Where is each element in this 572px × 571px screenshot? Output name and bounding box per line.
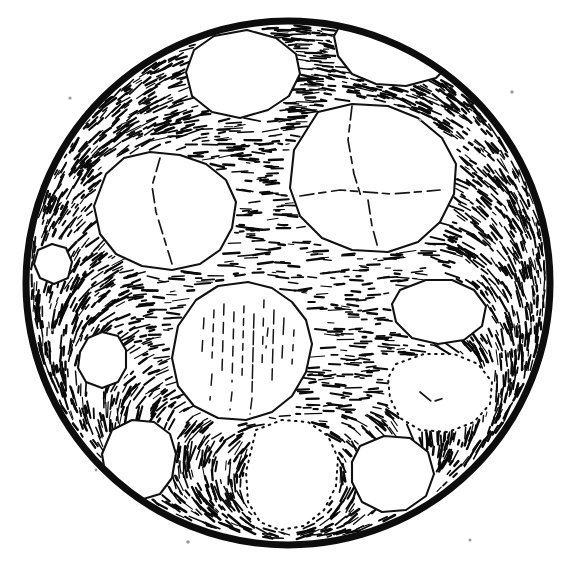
matrix-dash: [376, 324, 380, 325]
matrix-dash: [36, 296, 37, 301]
matrix-dash: [231, 480, 232, 484]
matrix-dash: [221, 480, 222, 484]
matrix-dash: [303, 40, 314, 41]
matrix-dash: [538, 253, 539, 264]
matrix-dash: [321, 272, 330, 273]
matrix-dash: [360, 354, 372, 355]
matrix-dash: [316, 40, 323, 41]
clast-outline: [34, 244, 72, 284]
matrix-dash: [144, 354, 148, 355]
matrix-dash: [501, 353, 502, 357]
matrix-dash: [286, 140, 295, 141]
matrix-dash: [315, 329, 327, 330]
matrix-dash: [451, 432, 452, 443]
matrix-dash: [439, 261, 449, 262]
matrix-dash: [167, 313, 179, 315]
matrix-dash: [140, 336, 146, 337]
matrix-dash: [202, 141, 209, 142]
thin-section-figure: [0, 0, 572, 571]
matrix-dash: [170, 291, 175, 292]
matrix-dash: [212, 470, 213, 480]
matrix-dash: [528, 350, 529, 356]
matrix-dash: [337, 376, 344, 377]
matrix-dash: [300, 392, 312, 393]
matrix-dash: [281, 533, 284, 534]
matrix-dash: [306, 61, 310, 62]
matrix-dash: [217, 129, 226, 130]
matrix-dash: [142, 300, 146, 301]
matrix-dash: [100, 413, 102, 420]
matrix-dash: [260, 180, 267, 181]
matrix-dash: [184, 272, 200, 274]
matrix-dash: [258, 177, 266, 178]
matrix-dash: [526, 307, 527, 319]
matrix-dash: [496, 391, 497, 402]
matrix-dash: [87, 316, 89, 319]
matrix-dash: [420, 268, 425, 269]
matrix-dash: [323, 66, 333, 67]
matrix-dash: [367, 313, 377, 314]
matrix-dash: [367, 283, 372, 284]
matrix-dash: [505, 372, 507, 386]
matrix-dash: [195, 283, 211, 284]
stray-speck: [533, 297, 536, 300]
matrix-dash: [106, 402, 107, 417]
matrix-dash: [242, 145, 245, 146]
matrix-dash: [528, 200, 529, 206]
matrix-dash: [153, 297, 164, 298]
matrix-dash: [367, 264, 380, 265]
matrix-dash: [319, 421, 327, 422]
matrix-dash: [243, 155, 251, 156]
matrix-dash: [266, 183, 276, 184]
matrix-dash: [310, 58, 326, 59]
matrix-dash: [441, 435, 442, 446]
matrix-dash: [533, 316, 534, 321]
matrix-dash: [260, 192, 270, 193]
matrix-dash: [433, 447, 434, 455]
matrix-dash: [358, 80, 364, 81]
matrix-dash: [264, 182, 272, 183]
matrix-dash: [269, 242, 279, 243]
matrix-dash: [217, 169, 226, 170]
matrix-dash: [336, 384, 346, 386]
matrix-dash: [158, 419, 160, 422]
matrix-dash: [302, 30, 310, 31]
matrix-dash: [243, 210, 249, 211]
matrix-dash: [234, 274, 238, 275]
matrix-dash: [359, 266, 366, 267]
matrix-dash: [272, 272, 276, 273]
matrix-dash: [310, 531, 313, 532]
matrix-dash: [277, 271, 285, 272]
matrix-dash: [243, 473, 244, 476]
matrix-dash: [309, 367, 319, 368]
matrix-dash: [537, 311, 538, 315]
matrix-dash: [404, 345, 408, 346]
matrix-dash: [512, 349, 513, 357]
matrix-dash: [367, 95, 376, 96]
matrix-dash: [112, 423, 113, 428]
matrix-dash: [345, 388, 361, 389]
matrix-dash: [240, 209, 251, 210]
thin-section-illustration: [0, 0, 572, 571]
matrix-dash: [293, 242, 309, 243]
matrix-dash: [60, 348, 62, 361]
matrix-dash: [384, 309, 391, 310]
matrix-dash: [115, 423, 116, 427]
matrix-dash: [119, 332, 122, 334]
matrix-dash: [331, 278, 335, 279]
matrix-dash: [505, 272, 507, 275]
matrix-dash: [343, 464, 344, 469]
matrix-dash: [226, 122, 241, 123]
matrix-dash: [257, 179, 261, 180]
matrix-dash: [298, 275, 301, 276]
matrix-dash: [166, 142, 170, 143]
matrix-dash: [273, 141, 280, 142]
matrix-dash: [184, 119, 189, 120]
matrix-dash: [323, 370, 331, 371]
matrix-dash: [377, 87, 382, 88]
matrix-dash: [322, 383, 329, 384]
matrix-dash: [322, 29, 335, 31]
matrix-dash: [187, 290, 194, 291]
matrix-dash: [284, 39, 294, 40]
matrix-dash: [360, 398, 369, 399]
